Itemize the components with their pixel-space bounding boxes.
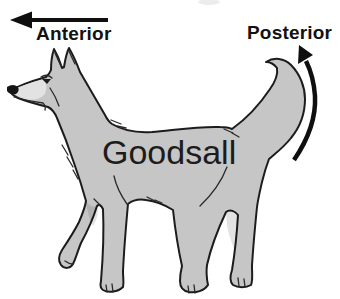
goodsall-label: Goodsall bbox=[102, 135, 236, 169]
posterior-label: Posterior bbox=[247, 23, 332, 42]
chest-hatch-1 bbox=[62, 145, 68, 155]
anterior-label: Anterior bbox=[36, 24, 112, 43]
dog-nose bbox=[7, 85, 19, 94]
scan-smudge bbox=[198, 0, 220, 5]
goodsall-dog-figure: Anterior Posterior Goodsall bbox=[0, 0, 340, 299]
